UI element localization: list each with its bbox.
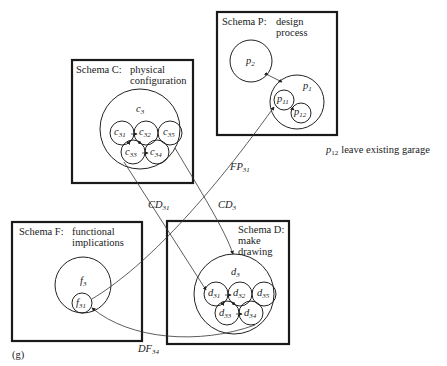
schema-diagram: Schema C: physical configuration c3 c31 … (0, 0, 447, 366)
svg-text:c3: c3 (136, 103, 145, 116)
figure-label: (g) (12, 349, 25, 361)
schema-d-desc-1: make (238, 235, 261, 246)
schema-p-desc-2: process (276, 27, 308, 38)
svg-text:p12: p12 (293, 106, 307, 119)
svg-text:Schema C:: Schema C: (76, 64, 122, 75)
svg-text:c35: c35 (163, 126, 175, 139)
svg-text:FP31: FP31 (229, 161, 250, 174)
schema-c-title: Schema C: (76, 64, 122, 75)
svg-text:p2: p2 (245, 55, 255, 68)
schema-c-desc-2: configuration (130, 75, 187, 86)
schema-d-title: Schema D: (238, 224, 284, 235)
svg-text:p11: p11 (276, 93, 289, 106)
schema-f-title: Schema F: (19, 226, 64, 237)
svg-text:p1: p1 (302, 80, 312, 93)
svg-text:c33: c33 (125, 146, 137, 159)
schema-p-desc-1: design (276, 16, 304, 27)
svg-text:c32: c32 (139, 126, 151, 139)
svg-text:d32: d32 (233, 287, 246, 300)
svg-text:d31: d31 (208, 287, 220, 300)
svg-text:c34: c34 (150, 146, 162, 159)
svg-text:CD31: CD31 (148, 199, 170, 212)
svg-text:DF34: DF34 (137, 343, 160, 356)
schema-c-desc-1: physical (130, 64, 165, 75)
schema-f-desc-2: implications (72, 237, 124, 248)
schema-p-box: Schema P: design process p2 p1 p11 p12 (217, 12, 337, 135)
schema-d-box: Schema D: make drawing d3 d31 d32 d35 d3… (167, 221, 289, 344)
svg-text:d34: d34 (244, 307, 257, 320)
svg-text:f3: f3 (80, 275, 87, 288)
svg-text:CD3: CD3 (218, 199, 237, 212)
svg-text:d3: d3 (231, 266, 240, 279)
svg-text:d33: d33 (219, 307, 232, 320)
schema-f-desc-1: functional (72, 226, 115, 237)
p12-annotation: p12leave existing garage (325, 144, 430, 157)
schema-p-title: Schema P: (222, 16, 267, 27)
svg-text:c31: c31 (114, 126, 126, 139)
svg-text:d35: d35 (257, 287, 270, 300)
svg-text:f31: f31 (76, 297, 86, 310)
schema-c-box: Schema C: physical configuration c3 c31 … (72, 60, 193, 183)
schema-f-box: Schema F: functional implications f3 f31 (12, 222, 142, 341)
